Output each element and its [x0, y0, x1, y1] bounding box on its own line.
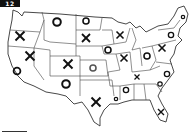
us-map — [0, 0, 189, 134]
us-outline — [8, 6, 188, 126]
scale-bar — [2, 131, 27, 132]
